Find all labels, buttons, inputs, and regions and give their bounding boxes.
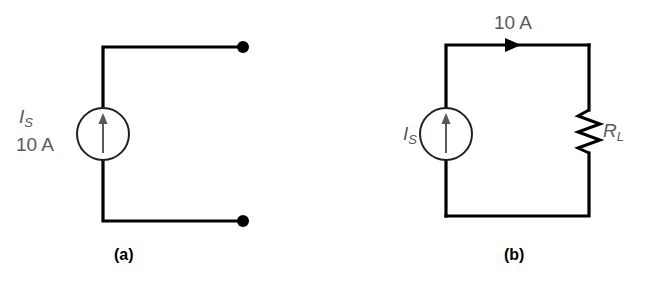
source-symbol-subscript-a: S xyxy=(24,115,33,130)
terminal-dot-bottom-a xyxy=(237,215,249,227)
load-resistor-letter-b: R xyxy=(603,120,617,141)
caption-b: (b) xyxy=(504,246,524,264)
branch-current-arrow-head-b xyxy=(505,38,521,52)
circuit-svg xyxy=(0,0,645,284)
branch-current-label-b: 10 A xyxy=(494,13,532,32)
source-symbol-label-b: IS xyxy=(403,124,417,146)
caption-a: (a) xyxy=(114,246,134,264)
wire-bottom-a xyxy=(103,160,242,221)
load-resistor-label-b: RL xyxy=(603,121,624,143)
panel-a-circuit xyxy=(77,41,249,227)
source-value-label-a: 10 A xyxy=(16,135,54,154)
circuit-figure: IS 10 A (a) IS 10 A RL (b) xyxy=(0,0,645,284)
panel-b-circuit xyxy=(420,38,600,216)
load-resistor-subscript-b: L xyxy=(617,129,624,144)
resistor-symbol-b xyxy=(578,110,600,153)
terminal-dot-top-a xyxy=(237,41,249,53)
wire-top-b xyxy=(446,45,589,108)
wire-top-a xyxy=(103,47,241,108)
wire-right-lower-b xyxy=(446,153,589,216)
source-symbol-subscript-b: S xyxy=(408,132,417,147)
source-symbol-label-a: IS xyxy=(19,107,33,129)
